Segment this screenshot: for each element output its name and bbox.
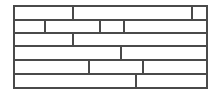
brick-course-3-unit-2 — [73, 33, 207, 46]
brick-course-1-unit-3 — [192, 6, 207, 20]
brick-course-1-unit-2 — [73, 6, 192, 20]
brick-course-2-unit-2 — [45, 20, 100, 33]
brick-course-4-unit-2 — [121, 46, 207, 60]
brick-course-5-unit-3 — [143, 60, 207, 74]
brick-bond-svg — [0, 0, 220, 93]
brick-course-6-unit-2 — [136, 74, 207, 88]
brick-cells-group — [14, 6, 207, 88]
brick-course-6-unit-1 — [14, 74, 136, 88]
brick-course-2-unit-1 — [14, 20, 45, 33]
brick-course-4-unit-1 — [14, 46, 121, 60]
brick-course-2-unit-4 — [124, 20, 207, 33]
brick-course-5-unit-2 — [89, 60, 143, 74]
brick-course-3-unit-1 — [14, 33, 73, 46]
brick-course-2-unit-3 — [100, 20, 124, 33]
brick-bond-figure — [0, 0, 220, 93]
brick-course-1-unit-1 — [14, 6, 73, 20]
brick-course-5-unit-1 — [14, 60, 89, 74]
